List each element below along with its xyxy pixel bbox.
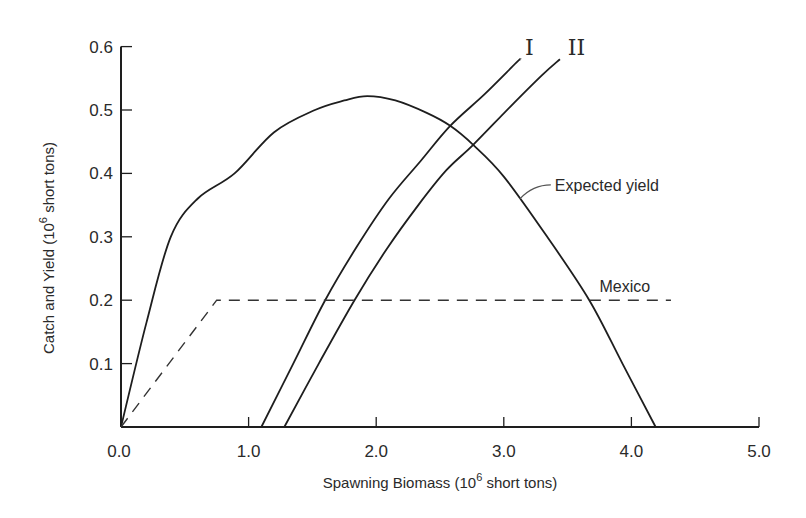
x-tick-label: 2.0	[364, 442, 388, 461]
x-tick-label: 4.0	[620, 442, 644, 461]
y-tick-label: 0.5	[89, 101, 113, 120]
x-axis-title: Spawning Biomass (106 short tons)	[323, 471, 558, 491]
series-mexico	[121, 300, 671, 427]
chart-svg: 0.01.02.03.04.05.00.10.20.30.40.50.6 III…	[0, 0, 806, 518]
annotations: IIIExpected yieldMexico	[520, 35, 659, 296]
label-ii: II	[568, 35, 585, 60]
y-tick-label: 0.1	[89, 355, 113, 374]
series-group	[121, 59, 671, 427]
x-tick-label: 3.0	[492, 442, 516, 461]
y-axis-title: Catch and Yield (106 short tons)	[37, 142, 57, 354]
series-ii	[284, 59, 560, 427]
y-tick-label: 0.2	[89, 291, 113, 310]
label-mexico: Mexico	[600, 278, 651, 295]
y-tick-label: 0.4	[89, 164, 113, 183]
label-expected-yield: Expected yield	[555, 177, 659, 194]
y-tick-label: 0.6	[89, 38, 113, 57]
axes: 0.01.02.03.04.05.00.10.20.30.40.50.6	[89, 38, 770, 461]
series-expected-yield	[121, 96, 656, 427]
chart: 0.01.02.03.04.05.00.10.20.30.40.50.6 III…	[0, 0, 806, 518]
label-i: I	[525, 35, 534, 60]
y-tick-label: 0.3	[89, 228, 113, 247]
x-tick-label: 5.0	[747, 442, 771, 461]
leader-line	[520, 185, 551, 199]
x-tick-label: 0.0	[107, 442, 131, 461]
x-tick-label: 1.0	[237, 442, 261, 461]
